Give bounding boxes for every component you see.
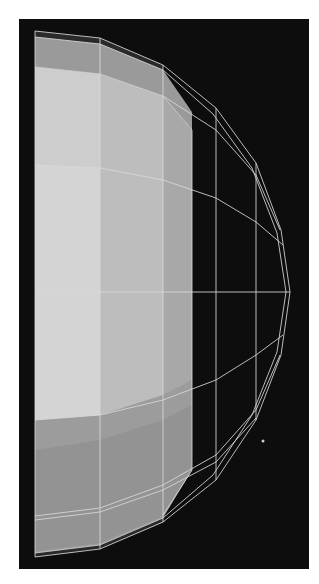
half-sphere-render <box>19 19 309 569</box>
render-viewport: Wireframe half-sphere rendering <box>19 19 309 569</box>
shaded-faces <box>35 31 192 557</box>
speck-dot <box>262 440 265 443</box>
